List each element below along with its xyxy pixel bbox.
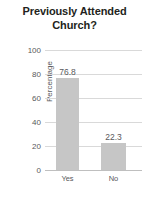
y-tick-label-40: 40	[32, 118, 41, 127]
x-tick-label-no: No	[109, 174, 119, 183]
y-axis-title: Percentage	[45, 49, 54, 115]
x-tick-label-yes: Yes	[61, 174, 73, 183]
gridline-100: 100	[45, 50, 142, 51]
y-tick-label-0: 0	[37, 166, 41, 175]
axis-baseline-0: 0	[45, 170, 142, 171]
chart-title-line-1: Previously Attended	[0, 4, 149, 18]
bar-chart-figure: Previously Attended Church? Percentage 1…	[0, 0, 149, 197]
chart-title-line-2: Church?	[0, 18, 149, 32]
bar-value-yes: 76.8	[59, 67, 76, 77]
y-tick-label-60: 60	[32, 94, 41, 103]
plot-area: Percentage 100 80 60 40 20 0 76.8 Yes 22…	[45, 50, 142, 170]
bar-value-no: 22.3	[105, 132, 122, 142]
bar-yes[interactable]: 76.8 Yes	[56, 78, 79, 170]
y-tick-label-100: 100	[28, 46, 41, 55]
y-tick-label-20: 20	[32, 142, 41, 151]
bar-no[interactable]: 22.3 No	[101, 143, 126, 170]
chart-title: Previously Attended Church?	[0, 4, 149, 32]
y-tick-label-80: 80	[32, 70, 41, 79]
